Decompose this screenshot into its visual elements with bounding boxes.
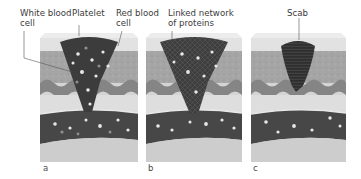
callout-linked-network: Linked network of proteins <box>168 8 234 28</box>
panel-a <box>40 33 138 162</box>
panel-c <box>251 33 346 162</box>
panel-label-c: c <box>253 163 258 173</box>
callout-text: Linked network <box>168 8 234 18</box>
callout-white-blood-cell: White blood cell <box>20 8 72 28</box>
panel-b <box>146 33 242 162</box>
panel-label-b: b <box>148 163 153 173</box>
callout-red-blood-cell: Red blood cell <box>116 8 159 28</box>
callout-text: Platelet <box>72 8 105 18</box>
callout-text: cell <box>116 18 159 28</box>
callout-scab: Scab <box>287 8 308 18</box>
callout-text: cell <box>20 18 72 28</box>
callout-text: Red blood <box>116 8 159 18</box>
panel-label-a: a <box>43 163 48 173</box>
callout-text: of proteins <box>168 18 234 28</box>
callout-text: Scab <box>287 8 308 18</box>
callout-text: White blood <box>20 8 72 18</box>
callout-platelet: Platelet <box>72 8 105 18</box>
